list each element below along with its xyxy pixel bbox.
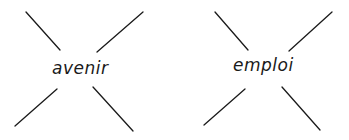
diagram-line-bottom-right [282,87,320,130]
diagram-line-bottom-left [204,89,245,125]
diagram-avenir-label: avenir [52,58,108,78]
diagram-line-top-left [26,12,60,50]
diagram-line-top-right [97,12,143,52]
diagram-line-top-right [289,12,332,51]
diagram-line-bottom-left [15,89,57,126]
diagram-line-top-left [215,12,248,50]
diagram-emploi-label: emploi [233,55,294,75]
diagram-line-bottom-right [93,87,133,131]
